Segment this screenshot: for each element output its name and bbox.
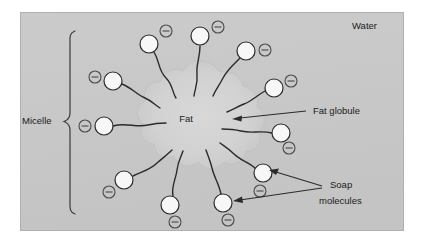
fat-globule-label: Fat globule [313, 105, 360, 116]
figure-root: Water Micelle Fat Fat globule Soap molec… [0, 0, 425, 246]
soap-molecules-label-line2: molecules [319, 195, 362, 206]
fat-label: Fat [179, 113, 193, 124]
soap-molecules-label-line1: Soap [330, 179, 352, 190]
soap-head-icon [161, 196, 179, 214]
soap-head-icon [254, 164, 272, 182]
soap-head-icon [95, 117, 113, 135]
water-label: Water [352, 20, 377, 31]
soap-head-icon [191, 27, 209, 45]
soap-head-icon [104, 72, 122, 90]
soap-head-icon [140, 35, 158, 53]
micelle-diagram: Water Micelle Fat Fat globule Soap molec… [0, 0, 425, 246]
soap-head-icon [272, 124, 290, 142]
soap-head-icon [115, 171, 133, 189]
soap-head-icon [265, 79, 283, 97]
soap-head-icon [237, 42, 255, 60]
soap-head-icon [214, 194, 232, 212]
micelle-label: Micelle [22, 115, 52, 126]
